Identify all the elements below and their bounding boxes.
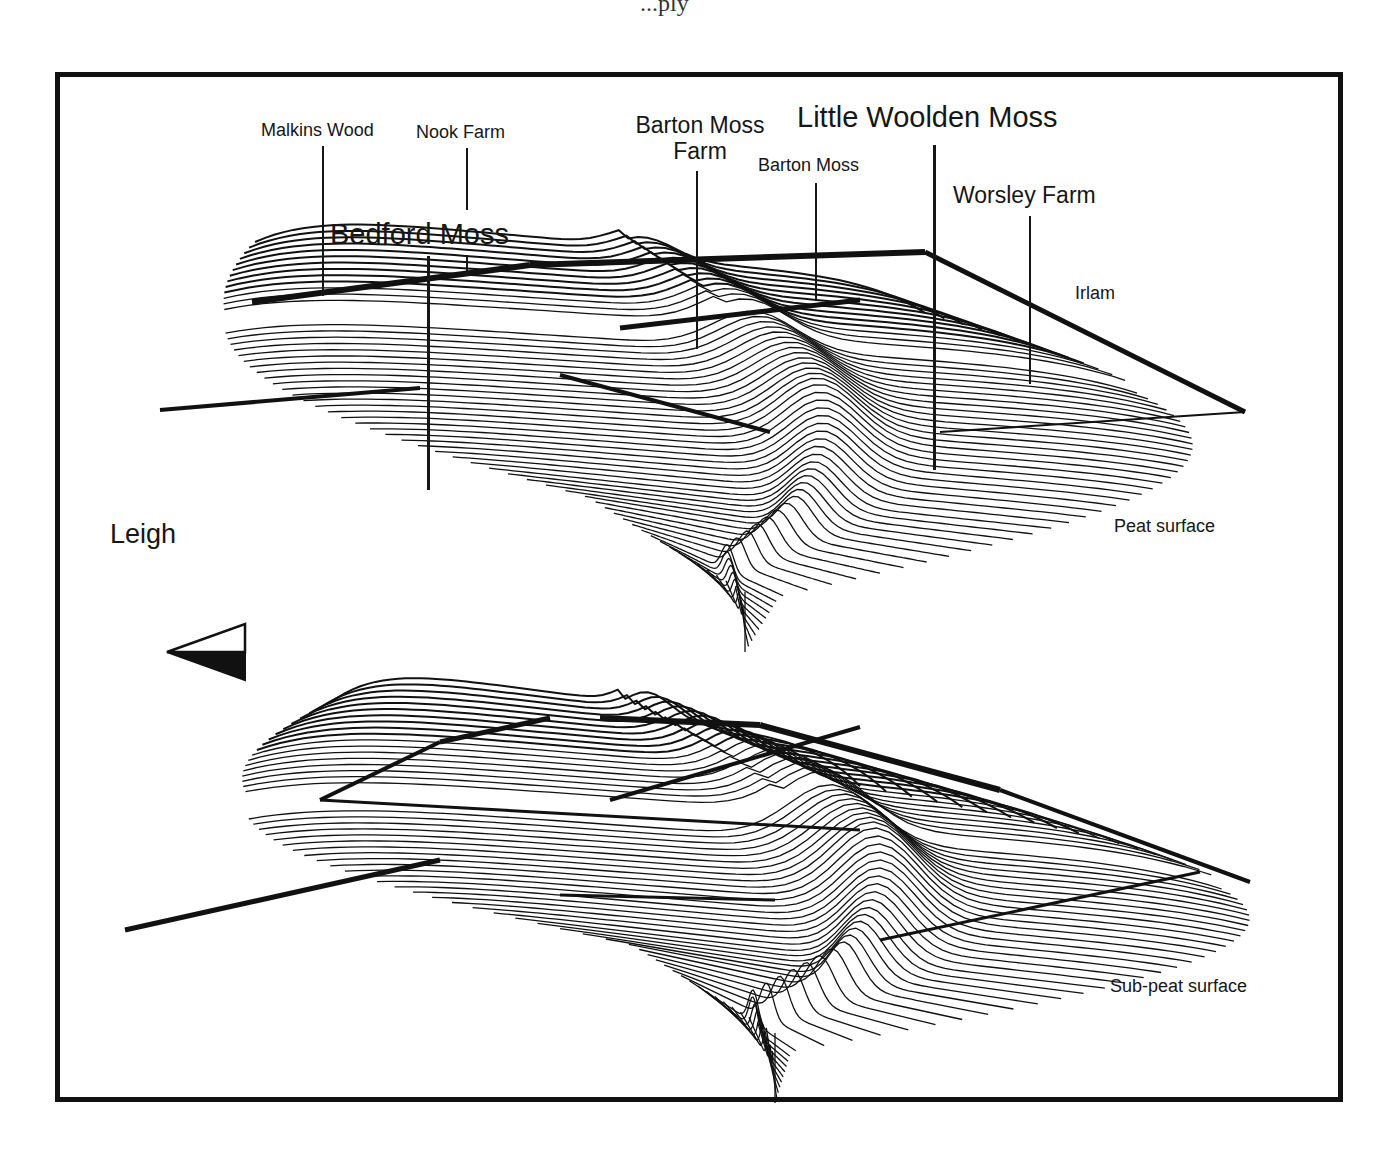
label-malkins-wood: Malkins Wood — [261, 121, 374, 139]
leader-nook-farm — [466, 148, 468, 210]
label-leigh: Leigh — [110, 521, 176, 548]
leader-barton-moss-farm — [696, 171, 698, 349]
leader-worsley-farm — [1029, 216, 1031, 384]
caption-subpeat-surface: Sub-peat surface — [1110, 977, 1247, 995]
leader-malkins-wood — [322, 146, 324, 296]
leader-little-woolden-moss — [933, 145, 936, 470]
caption-peat-surface: Peat surface — [1114, 517, 1215, 535]
label-barton-moss: Barton Moss — [758, 156, 859, 174]
label-barton-moss-farm-line2: Farm — [625, 140, 775, 163]
orientation-arrow-icon — [167, 624, 245, 680]
terrain-wireframes — [0, 0, 1388, 1173]
leader-barton-moss — [815, 183, 817, 301]
label-barton-moss-farm-line1: Barton Moss — [625, 114, 775, 137]
leader-bedford-moss — [427, 256, 430, 490]
label-little-woolden-moss: Little Woolden Moss — [797, 103, 1058, 132]
label-barton-moss-farm: Barton Moss Farm — [625, 114, 775, 163]
leader-nook-farm-lower — [466, 255, 468, 275]
label-nook-farm: Nook Farm — [416, 123, 505, 141]
label-bedford-moss: Bedford Moss — [330, 220, 509, 249]
label-irlam: Irlam — [1075, 284, 1115, 302]
label-worsley-farm: Worsley Farm — [953, 184, 1096, 207]
subpeat-surface-wireframe — [125, 678, 1250, 1103]
